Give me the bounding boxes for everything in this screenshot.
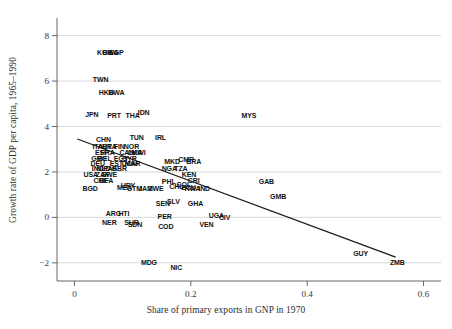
data-point-label: CIV: [219, 213, 230, 220]
data-point-label: NER: [102, 218, 116, 225]
data-point-label: VEN: [199, 220, 213, 227]
x-tick-label-2: 0.4: [301, 289, 312, 299]
data-point-label: IRL: [155, 133, 166, 140]
data-point-label: NIC: [170, 264, 182, 271]
y-tick-label-3: 2: [44, 167, 49, 177]
data-point-label: MYS: [242, 112, 257, 119]
data-point-label: GMB: [270, 193, 286, 200]
data-point-label: GUY: [353, 249, 368, 256]
y-tick-label-2: 4: [44, 122, 49, 132]
data-point-label: GHA: [188, 200, 203, 207]
x-axis-label: Share of primary exports in GNP in 1970: [0, 305, 452, 315]
data-point-label: IDN: [138, 108, 150, 115]
y-tick-label-5: −2: [39, 258, 49, 268]
data-point-label: JPN: [85, 111, 98, 118]
plot-canvas: [0, 0, 452, 329]
data-point-label: MAR: [125, 159, 141, 166]
y-tick-label-4: 0: [44, 212, 49, 222]
data-point-label: PER: [158, 213, 172, 220]
data-point-label: BGD: [83, 185, 98, 192]
data-point-label: BWA: [108, 89, 124, 96]
data-point-label: HTI: [118, 209, 129, 216]
scatter-plot-figure: Growth rate of GDP per capita, 1965–1990…: [0, 0, 452, 329]
data-point-label: SDN: [128, 220, 142, 227]
data-point-label: BFA: [100, 176, 114, 183]
x-tick-label-0: 0: [72, 289, 77, 299]
y-axis-label: Growth rate of GDP per capita, 1965–1990: [8, 57, 18, 223]
data-point-label: SLV: [167, 198, 180, 205]
data-point-label: PRT: [107, 112, 121, 119]
data-point-label: COD: [158, 223, 173, 230]
data-point-label: GAB: [259, 177, 274, 184]
x-tick-label-3: 0.6: [418, 289, 429, 299]
data-point-label: ZMB: [390, 259, 405, 266]
y-axis-label-container: Growth rate of GDP per capita, 1965–1990: [2, 0, 24, 280]
y-tick-label-0: 8: [44, 31, 49, 41]
data-point-label: TWN: [93, 75, 109, 82]
data-point-label: IND: [198, 185, 210, 192]
data-point-label: ZWE: [148, 185, 163, 192]
x-tick-label-1: 0.2: [185, 289, 196, 299]
data-point-label: TUN: [130, 133, 144, 140]
data-point-label: SGP: [109, 48, 123, 55]
data-point-label: BRA: [186, 157, 201, 164]
data-point-label: MDG: [141, 258, 157, 265]
y-tick-label-1: 6: [44, 76, 49, 86]
